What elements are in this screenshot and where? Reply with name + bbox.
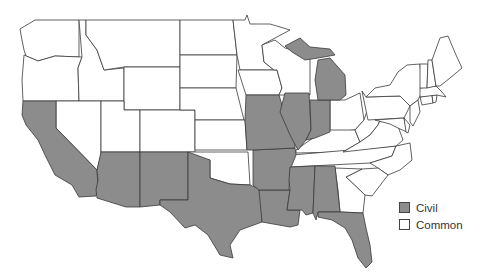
state-south-dakota bbox=[180, 55, 237, 88]
legend-item-common: Common bbox=[399, 216, 463, 233]
state-washington bbox=[20, 20, 79, 61]
state-oregon bbox=[22, 55, 82, 101]
state-maine bbox=[432, 36, 462, 86]
state-north-dakota bbox=[180, 20, 237, 55]
state-new-mexico bbox=[140, 152, 188, 207]
state-kansas bbox=[195, 120, 247, 150]
legend: Civil Common bbox=[399, 199, 463, 233]
legend-swatch-common bbox=[399, 219, 410, 230]
legend-label-civil: Civil bbox=[416, 202, 438, 214]
us-map bbox=[0, 0, 488, 280]
legend-swatch-civil bbox=[399, 202, 410, 213]
state-iowa bbox=[238, 70, 282, 95]
state-florida bbox=[318, 212, 372, 268]
state-mississippi bbox=[287, 166, 315, 215]
state-rhode-island bbox=[432, 95, 437, 103]
state-michigan-lower bbox=[315, 58, 346, 100]
state-colorado bbox=[140, 110, 195, 152]
state-arizona bbox=[96, 152, 140, 207]
state-wyoming bbox=[124, 67, 180, 110]
legend-label-common: Common bbox=[416, 219, 463, 231]
legend-item-civil: Civil bbox=[399, 199, 463, 216]
